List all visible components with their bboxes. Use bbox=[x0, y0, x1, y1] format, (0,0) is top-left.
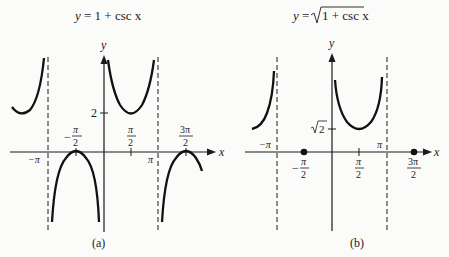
panel-b-tick-sqrt2-label: 2 bbox=[311, 121, 327, 135]
panel-a-caption: (a) bbox=[92, 236, 105, 250]
svg-text:π: π bbox=[356, 156, 362, 167]
panel-a-label-neg-pi: −π bbox=[28, 154, 41, 165]
panel-a-x-arrow-icon bbox=[207, 149, 216, 156]
panel-a-tick-2-label: 2 bbox=[91, 106, 97, 120]
panel-a-curve-center-up bbox=[108, 60, 154, 114]
panel-b-caption: (b) bbox=[350, 236, 364, 250]
panel-b-title-radicand: 1 + csc x bbox=[322, 8, 369, 23]
panel-a-x-label: x bbox=[218, 145, 225, 159]
panel-a: y = 1 + csc x x y 2 −π π − π 2 π 2 bbox=[10, 8, 225, 250]
panel-b-x-label: x bbox=[433, 145, 440, 159]
svg-text:2: 2 bbox=[319, 123, 325, 135]
panel-a-label-pi: π bbox=[148, 154, 154, 165]
svg-text:2: 2 bbox=[356, 169, 361, 180]
panel-a-y-label: y bbox=[100, 38, 107, 52]
svg-text:π: π bbox=[73, 124, 79, 135]
panel-b-label-3pi-half: 3π 2 bbox=[407, 156, 421, 180]
panel-b-point-neg-pi-half bbox=[301, 149, 308, 156]
panel-b-curve-center bbox=[335, 77, 382, 129]
panel-a-curve-center-down bbox=[52, 151, 99, 222]
svg-text:2: 2 bbox=[128, 137, 133, 148]
panel-b-x-arrow-icon bbox=[423, 149, 432, 156]
panel-a-title-y: y bbox=[73, 8, 81, 23]
panel-b-point-3pi-half bbox=[411, 149, 418, 156]
svg-text:−: − bbox=[64, 130, 71, 144]
panel-b-curves bbox=[252, 71, 382, 129]
panel-a-curve-left-up bbox=[12, 58, 44, 113]
svg-text:−: − bbox=[292, 161, 299, 175]
panel-a-label-pi-half: π 2 bbox=[127, 124, 136, 148]
panel-a-curve-right-down bbox=[162, 151, 202, 222]
panel-b-title-eq: = bbox=[302, 8, 309, 23]
svg-text:π: π bbox=[301, 156, 307, 167]
panel-a-y-arrow-icon bbox=[101, 55, 108, 64]
panel-b: y = 1 + csc x x y 2 −π π − π 2 π bbox=[245, 7, 440, 250]
panel-b-title-y: y bbox=[291, 8, 299, 23]
svg-text:2: 2 bbox=[73, 137, 78, 148]
panel-a-label-neg-pi-half: − π 2 bbox=[64, 124, 82, 148]
panel-b-label-pi-half: π 2 bbox=[355, 156, 364, 180]
panel-b-label-neg-pi: −π bbox=[259, 139, 272, 150]
svg-text:3π: 3π bbox=[180, 124, 190, 135]
panel-b-curve-left bbox=[252, 71, 274, 129]
svg-text:3π: 3π bbox=[408, 156, 418, 167]
panel-b-label-pi: π bbox=[377, 139, 383, 150]
svg-text:π: π bbox=[128, 124, 134, 135]
panel-b-label-neg-pi-half: − π 2 bbox=[292, 156, 309, 180]
svg-text:2: 2 bbox=[301, 169, 306, 180]
figure: y = 1 + csc x x y 2 −π π − π 2 π 2 bbox=[0, 0, 449, 257]
panel-a-curves bbox=[12, 58, 202, 222]
panel-a-label-3pi-half: 3π 2 bbox=[179, 124, 193, 148]
svg-text:2: 2 bbox=[411, 169, 416, 180]
svg-text:2: 2 bbox=[183, 137, 188, 148]
panel-b-y-label: y bbox=[328, 36, 335, 50]
panel-b-y-arrow-icon bbox=[329, 53, 336, 62]
panel-a-title-eq: = 1 + csc x bbox=[84, 8, 142, 23]
